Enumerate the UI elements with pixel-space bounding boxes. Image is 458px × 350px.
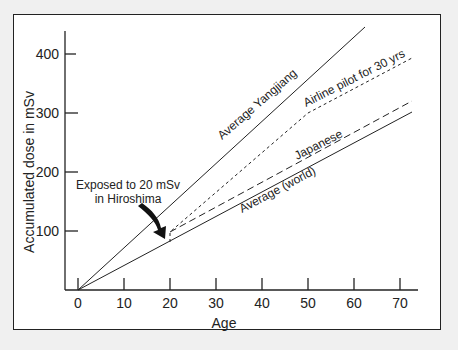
x-tick-label: 30 [208, 295, 224, 311]
arrow-icon [138, 203, 166, 239]
y-tick-label: 100 [36, 223, 60, 239]
x-tick-label: 70 [392, 295, 408, 311]
x-tick-label: 40 [254, 295, 270, 311]
x-ticks [78, 278, 400, 290]
x-tick-label: 50 [300, 295, 316, 311]
series-yangjiang [78, 27, 365, 290]
y-ticks [65, 54, 78, 231]
x-tick-label: 10 [116, 295, 132, 311]
annotation-line2: in Hiroshima [95, 192, 162, 206]
x-axis-label: Age [212, 315, 237, 331]
y-tick-label: 300 [36, 105, 60, 121]
x-tick-label: 60 [346, 295, 362, 311]
x-tick-label: 20 [162, 295, 178, 311]
label-pilot: Airline pilot for 30 yrs [301, 46, 407, 109]
y-tick-label: 400 [36, 46, 60, 62]
line-chart: 100 200 300 400 0 10 20 30 40 50 60 70 A… [0, 0, 458, 350]
y-tick-label: 200 [36, 164, 60, 180]
label-japanese: Japanese [292, 126, 345, 162]
annotation-line1: Exposed to 20 mSv [76, 178, 180, 192]
x-tick-label: 0 [74, 295, 82, 311]
series-japanese [170, 101, 412, 232]
y-axis-label: Accumulated dose in mSv [21, 91, 37, 253]
